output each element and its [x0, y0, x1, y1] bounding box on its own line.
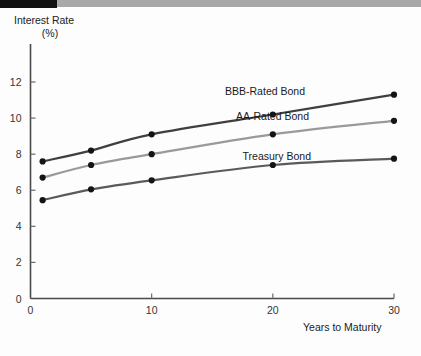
y-tick-label: 10: [10, 112, 22, 124]
data-point: [391, 118, 397, 124]
y-tick-label: 12: [10, 76, 22, 88]
data-point: [149, 177, 155, 183]
series-label-treasury-bond: Treasury Bond: [243, 150, 312, 162]
data-point: [40, 197, 46, 203]
series-label-aa-rated-bond: AA-Rated Bond: [236, 110, 309, 122]
data-point: [391, 92, 397, 98]
x-tick-label: 0: [28, 304, 34, 316]
y-tick-label: 4: [16, 220, 22, 232]
data-series-layer: [43, 95, 394, 201]
data-point: [88, 147, 94, 153]
data-point: [270, 162, 276, 168]
tick-labels-layer: 0246810120102030: [10, 76, 400, 316]
data-point: [149, 151, 155, 157]
series-label-bbb-rated-bond: BBB-Rated Bond: [225, 85, 305, 97]
data-point: [391, 156, 397, 162]
x-tick-label: 20: [267, 304, 279, 316]
data-point: [149, 131, 155, 137]
y-tick-label: 8: [16, 148, 22, 160]
y-tick-label: 2: [16, 256, 22, 268]
data-point: [270, 131, 276, 137]
bond-yield-chart-figure: Interest Rate (%) Years to Maturity 0246…: [0, 0, 421, 356]
data-point: [88, 162, 94, 168]
x-tick-label: 30: [388, 304, 400, 316]
data-point: [40, 158, 46, 164]
series-line-bbb-rated-bond: [43, 95, 394, 162]
y-tick-label: 6: [16, 184, 22, 196]
x-tick-label: 10: [146, 304, 158, 316]
y-tick-label: 0: [16, 293, 22, 305]
series-labels-layer: BBB-Rated BondAA-Rated BondTreasury Bond: [225, 85, 311, 162]
data-points-layer: [40, 92, 398, 204]
data-point: [40, 175, 46, 181]
plot-area: 0246810120102030 BBB-Rated BondAA-Rated …: [0, 0, 421, 356]
data-point: [88, 186, 94, 192]
